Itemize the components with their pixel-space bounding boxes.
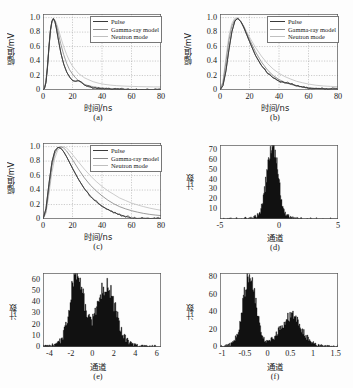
panel-b-y-axis-label: 幅值/mV <box>183 18 194 80</box>
y-tick-label: 20 <box>17 320 40 329</box>
y-tick-label: 0.6 <box>194 42 217 51</box>
legend-line-pulse <box>93 150 108 151</box>
legend-line-gamma <box>93 29 108 30</box>
x-tick-label: 60 <box>297 92 321 101</box>
x-tick-label: 1 <box>301 349 325 358</box>
panel-c-caption: (c) <box>10 242 186 251</box>
legend-line-gamma <box>93 158 108 159</box>
legend-label: Gamma-ray model <box>111 155 159 162</box>
panel-b-x-axis-label: 时间/ns <box>187 101 353 113</box>
panel-f: 计数 020406080 -1-0.500.511.5 通道 (f) <box>177 261 353 388</box>
x-tick-label: 0 <box>208 92 232 101</box>
legend-item: Neutron mode <box>92 162 159 170</box>
panel-b-legend: Pulse Gamma-ray model Neutron mode <box>267 16 339 43</box>
panel-a-plot-area: Pulse Gamma-ray model Neutron mode <box>43 14 161 90</box>
legend-item: Pulse <box>269 18 336 26</box>
y-tick-label: 30 <box>194 184 217 193</box>
y-tick-label: 30 <box>17 308 40 317</box>
panel-a-legend: Pulse Gamma-ray model Neutron mode <box>90 16 162 43</box>
legend-label: Gamma-ray model <box>288 26 336 33</box>
x-tick-label: -1 <box>210 349 234 358</box>
x-tick-label: 4 <box>123 349 147 358</box>
legend-item: Gamma-ray model <box>269 26 336 34</box>
legend-line-neutron <box>270 36 285 37</box>
x-tick-label: 0 <box>31 221 55 230</box>
legend-label: Pulse <box>111 18 125 25</box>
x-tick-label: 2 <box>102 349 126 358</box>
y-tick-label: 0.2 <box>17 71 40 80</box>
panel-b-caption: (b) <box>187 113 353 122</box>
legend-item: Gamma-ray model <box>92 155 159 163</box>
y-tick-label: 60 <box>17 275 40 284</box>
legend-line-pulse <box>270 21 285 22</box>
y-tick-label: 1.0 <box>17 142 40 151</box>
x-tick-label: 0.5 <box>278 349 302 358</box>
panel-c-y-axis-label: 幅值/mV <box>6 147 17 209</box>
y-tick-label: 50 <box>194 165 217 174</box>
x-tick-label: 0 <box>80 349 104 358</box>
legend-label: Pulse <box>288 18 302 25</box>
x-tick-label: 80 <box>149 221 173 230</box>
panel-f-plot-area <box>220 273 338 347</box>
panel-a: 幅值/mV 00.20.40.60.81.0 Pulse Gamma-ray m… <box>0 2 176 126</box>
x-tick-label: 80 <box>149 92 173 101</box>
legend-label: Neutron mode <box>111 33 148 40</box>
x-tick-label: 6 <box>145 349 169 358</box>
legend-label: Neutron mode <box>288 33 325 40</box>
panel-b-plot-area: Pulse Gamma-ray model Neutron mode <box>220 14 338 90</box>
y-tick-label: 50 <box>17 286 40 295</box>
legend-item: Pulse <box>92 18 159 26</box>
x-tick-label: 40 <box>90 221 114 230</box>
panel-d-plot-area <box>220 145 338 219</box>
panel-f-caption: (f) <box>187 372 353 381</box>
y-tick-label: 80 <box>194 272 217 281</box>
x-tick-label: 5 <box>326 221 350 230</box>
panel-c-plot-area: Pulse Gamma-ray model Neutron mode <box>43 143 161 219</box>
y-tick-label: 0.8 <box>17 156 40 165</box>
y-tick-label: 0.8 <box>17 27 40 36</box>
y-tick-label: 1.0 <box>194 13 217 22</box>
panel-c: 幅值/mV 00.20.40.60.81.0 Pulse Gamma-ray m… <box>0 131 176 255</box>
y-tick-label: 0.4 <box>17 56 40 65</box>
x-tick-label: 80 <box>326 92 350 101</box>
y-tick-label: 40 <box>194 175 217 184</box>
x-tick-label: -4 <box>37 349 61 358</box>
y-tick-label: 0.4 <box>194 56 217 65</box>
legend-label: Pulse <box>111 147 125 154</box>
x-tick-label: 60 <box>120 221 144 230</box>
panel-d: 计数 10203040506070 -505 通道 (d) <box>177 131 353 255</box>
y-tick-label: 1.0 <box>17 13 40 22</box>
panel-f-x-axis-label: 通道 <box>187 360 353 372</box>
y-tick-label: 20 <box>194 325 217 334</box>
legend-label: Gamma-ray model <box>111 26 159 33</box>
x-tick-label: 40 <box>267 92 291 101</box>
panel-a-caption: (a) <box>10 113 186 122</box>
x-tick-label: 0 <box>256 349 280 358</box>
x-tick-label: 40 <box>90 92 114 101</box>
x-tick-label: 0 <box>267 221 291 230</box>
y-tick-label: 0.6 <box>17 42 40 51</box>
x-tick-label: 0 <box>31 92 55 101</box>
panel-a-x-axis-label: 时间/ns <box>10 101 186 113</box>
y-tick-label: 0.6 <box>17 171 40 180</box>
legend-line-pulse <box>93 21 108 22</box>
legend-line-neutron <box>93 36 108 37</box>
legend-label: Neutron mode <box>111 162 148 169</box>
panel-b: 幅值/mV 00.20.40.60.81.0 Pulse Gamma-ray m… <box>177 2 353 126</box>
figure-sheet: 幅值/mV 00.20.40.60.81.0 Pulse Gamma-ray m… <box>0 0 353 388</box>
panel-d-x-axis-label: 通道 <box>187 231 353 243</box>
y-tick-label: 70 <box>194 145 217 154</box>
y-tick-label: 0.2 <box>194 71 217 80</box>
y-tick-label: 60 <box>194 290 217 299</box>
y-tick-label: 0.2 <box>17 200 40 209</box>
y-tick-label: 0.4 <box>17 185 40 194</box>
y-tick-label: 0.8 <box>194 27 217 36</box>
panel-e-caption: (e) <box>10 372 186 381</box>
panel-e-plot-area <box>43 273 161 347</box>
x-tick-label: 1.5 <box>324 349 348 358</box>
x-tick-label: 20 <box>61 221 85 230</box>
legend-line-gamma <box>270 29 285 30</box>
panel-e-x-axis-label: 通道 <box>10 360 186 372</box>
panel-c-x-axis-label: 时间/ns <box>10 230 186 242</box>
x-tick-label: 20 <box>61 92 85 101</box>
